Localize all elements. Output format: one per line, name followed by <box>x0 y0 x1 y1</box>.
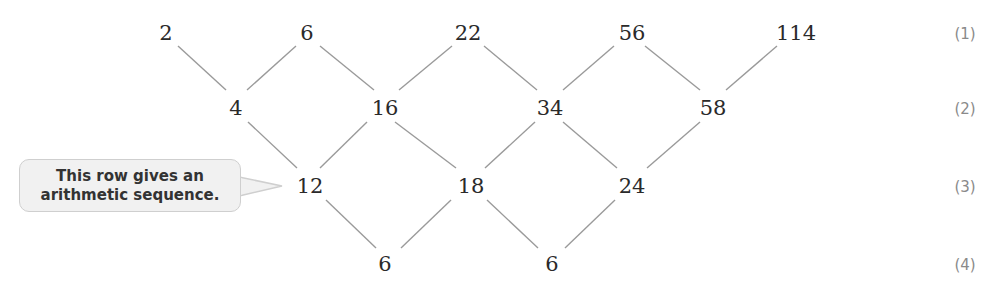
callout-line-2: arithmetic sequence. <box>41 186 220 205</box>
callout-line-1: This row gives an <box>56 167 204 186</box>
callout-pointer-icon <box>0 0 993 293</box>
callout-annotation: This row gives an arithmetic sequence. <box>19 159 241 212</box>
